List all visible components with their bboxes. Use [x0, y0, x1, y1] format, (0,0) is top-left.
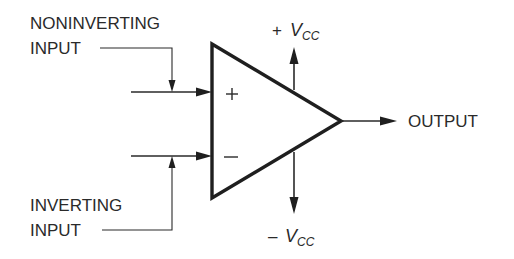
noninverting-label-line2: INPUT	[30, 39, 81, 58]
inverting-label-line1: INVERTING	[30, 196, 122, 215]
neg-supply-label: – V CC	[268, 226, 315, 249]
arrow-right-icon	[196, 88, 212, 97]
arrow-right-icon	[196, 152, 212, 161]
arrow-up-icon	[169, 156, 176, 168]
noninverting-label-line1: NONINVERTING	[30, 14, 160, 33]
pos-supply-subscript: CC	[302, 29, 320, 43]
neg-supply-sign: –	[268, 227, 278, 246]
arrow-down-icon	[169, 80, 176, 92]
op-amp-triangle	[212, 44, 341, 198]
op-amp-diagram: NONINVERTING INPUT INVERTING INPUT OUTPU…	[0, 0, 514, 259]
neg-supply-wire	[290, 152, 299, 214]
output-wire	[341, 117, 397, 126]
arrow-right-icon	[380, 117, 397, 126]
pos-supply-label: + V CC	[272, 20, 320, 43]
arrow-down-icon	[290, 197, 299, 214]
noninverting-label-leader	[100, 48, 176, 92]
inverting-label-leader	[102, 156, 176, 230]
arrow-up-icon	[290, 47, 299, 64]
pos-supply-wire	[290, 47, 299, 90]
output-label: OUTPUT	[408, 112, 478, 131]
plus-terminal-sign	[226, 88, 238, 100]
inverting-label-line2: INPUT	[30, 221, 81, 240]
pos-supply-sign: +	[272, 21, 282, 40]
neg-supply-subscript: CC	[297, 235, 315, 249]
